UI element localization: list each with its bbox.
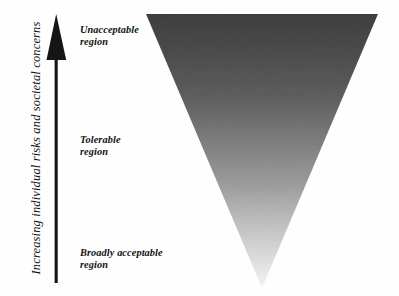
triangle-body — [146, 14, 378, 288]
up-arrow-icon — [40, 10, 74, 290]
triangle-svg — [140, 8, 385, 296]
region-label-unacceptable: Unacceptable region — [80, 24, 139, 49]
inverted-triangle — [140, 8, 385, 296]
alarp-risk-triangle-diagram: Increasing individual risks and societal… — [0, 0, 399, 296]
up-arrow-svg — [40, 10, 74, 290]
region-label-tolerable: Tolerable region — [80, 134, 121, 159]
arrow-shaft — [55, 54, 58, 283]
arrow-head — [47, 14, 67, 60]
